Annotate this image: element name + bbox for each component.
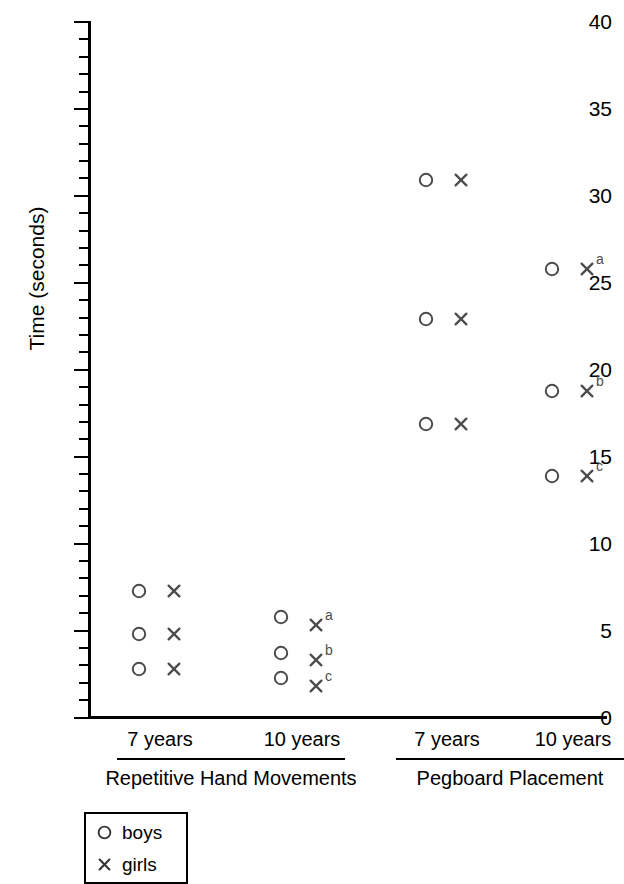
legend-item-boys: boys: [96, 822, 162, 842]
legend-item-girls: girls: [96, 854, 157, 874]
data-point-boys: [543, 467, 561, 485]
x-axis-age-label: 7 years: [414, 729, 480, 749]
data-point-annotation: b: [325, 643, 333, 657]
task-group-rule: [117, 758, 345, 760]
data-point-girls: [578, 260, 596, 278]
data-point-boys: [130, 625, 148, 643]
data-point-annotation: a: [596, 252, 604, 266]
x-axis-age-label: 10 years: [535, 729, 612, 749]
data-point-girls: [165, 660, 183, 678]
data-point-boys: [543, 382, 561, 400]
data-point-girls: [165, 625, 183, 643]
data-point-girls: [307, 651, 325, 669]
x-axis-task-label: Repetitive Hand Movements: [105, 768, 356, 788]
data-point-boys: [272, 644, 290, 662]
legend-label-girls: girls: [122, 855, 157, 874]
x-axis-age-label: 7 years: [127, 729, 193, 749]
task-group-rule: [396, 758, 624, 760]
data-point-boys: [417, 415, 435, 433]
data-point-girls: [452, 310, 470, 328]
data-point-boys: [130, 582, 148, 600]
data-point-boys: [543, 260, 561, 278]
legend-box: boys girls: [84, 812, 188, 884]
data-point-boys: [417, 171, 435, 189]
data-point-girls: [165, 582, 183, 600]
data-point-girls: [452, 415, 470, 433]
x-axis-task-label: Pegboard Placement: [417, 768, 604, 788]
data-point-girls: [578, 382, 596, 400]
data-point-girls: [452, 171, 470, 189]
data-point-boys: [417, 310, 435, 328]
data-point-annotation: a: [325, 608, 333, 622]
x-axis-age-label: 10 years: [264, 729, 341, 749]
data-point-annotation: b: [596, 374, 604, 388]
data-point-boys: [272, 669, 290, 687]
data-point-annotation: c: [325, 669, 332, 683]
data-point-boys: [130, 660, 148, 678]
data-point-annotation: c: [596, 459, 603, 473]
data-point-boys: [272, 608, 290, 626]
cross-marker-icon: [96, 856, 113, 873]
data-point-girls: [307, 677, 325, 695]
legend-label-boys: boys: [122, 823, 162, 842]
circle-marker-icon: [96, 824, 113, 841]
data-point-girls: [578, 467, 596, 485]
data-point-girls: [307, 616, 325, 634]
